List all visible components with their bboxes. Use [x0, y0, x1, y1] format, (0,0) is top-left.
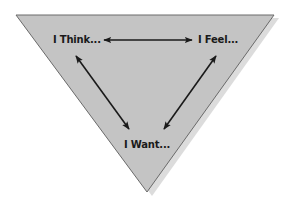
node-i-want: I Want...	[124, 139, 170, 151]
diagram-graphic	[0, 0, 290, 208]
triangle-diagram: I Think... I Feel... I Want...	[0, 0, 290, 208]
node-i-think: I Think...	[53, 34, 101, 46]
node-i-feel: I Feel...	[198, 34, 238, 46]
